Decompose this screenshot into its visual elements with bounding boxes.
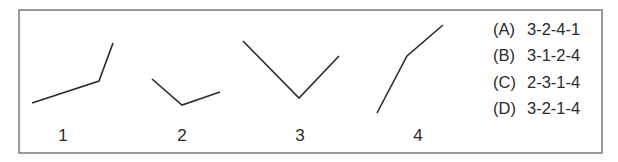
- shape-label-2: 2: [177, 127, 186, 144]
- angle-shape-3: [243, 41, 339, 98]
- shape-label-4: 4: [413, 127, 422, 144]
- option-b: (B)3-1-2-4: [493, 46, 580, 64]
- option-c: (C)2-3-1-4: [493, 73, 580, 91]
- shape-label-1: 1: [58, 127, 67, 144]
- angle-shape-4: [377, 25, 443, 113]
- option-value: 3-1-2-4: [527, 46, 580, 64]
- option-value: 3-2-4-1: [527, 20, 580, 38]
- option-key: (D): [493, 99, 527, 117]
- figure-panel: 1 2 3 4 (A)3-2-4-1 (B)3-1-2-4 (C)2-3-1-4…: [0, 0, 618, 162]
- option-key: (A): [493, 20, 527, 38]
- angle-shape-1: [32, 43, 113, 103]
- option-value: 2-3-1-4: [527, 73, 580, 91]
- option-key: (C): [493, 73, 527, 91]
- angle-shape-2: [152, 79, 220, 105]
- option-d: (D)3-2-1-4: [493, 99, 580, 117]
- option-key: (B): [493, 46, 527, 64]
- shape-label-3: 3: [295, 127, 304, 144]
- option-a: (A)3-2-4-1: [493, 20, 580, 38]
- option-value: 3-2-1-4: [527, 99, 580, 117]
